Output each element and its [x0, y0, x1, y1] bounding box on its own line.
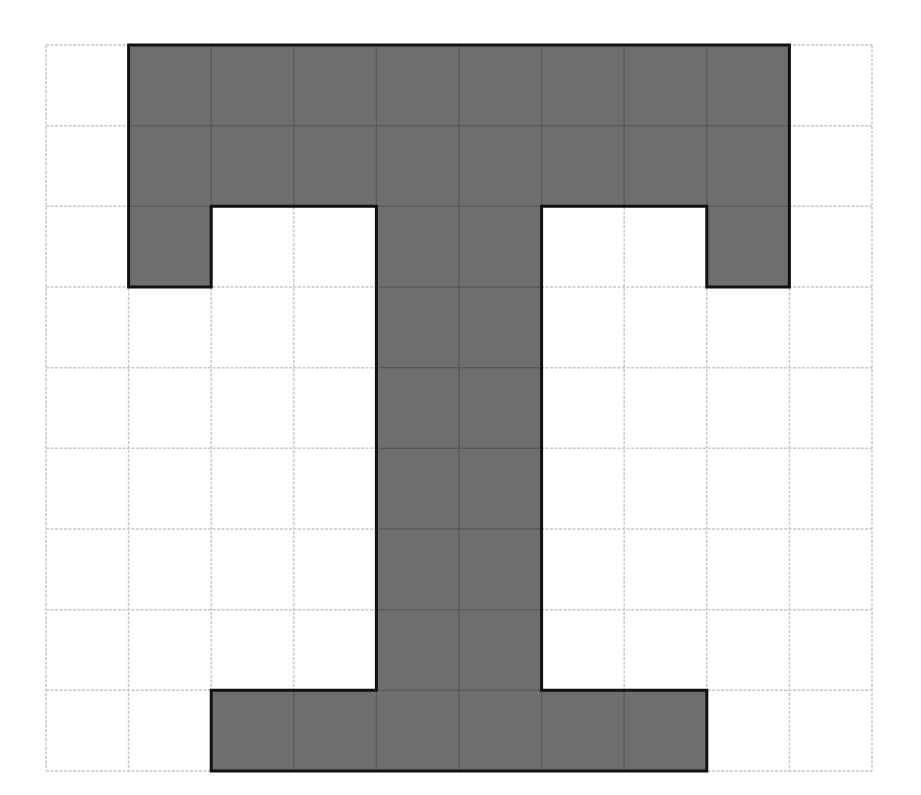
filled-cell	[294, 690, 377, 771]
filled-cell	[542, 126, 625, 207]
filled-cell	[376, 690, 459, 771]
filled-cell	[624, 45, 707, 126]
filled-cell	[376, 206, 459, 287]
filled-cell	[459, 610, 542, 691]
filled-cell	[707, 126, 790, 207]
filled-cell	[542, 45, 625, 126]
filled-cell	[294, 45, 377, 126]
filled-cell	[376, 368, 459, 449]
filled-cell	[376, 610, 459, 691]
filled-cell	[624, 126, 707, 207]
filled-cell	[459, 126, 542, 207]
filled-cell	[129, 126, 212, 207]
filled-cell	[707, 206, 790, 287]
filled-cell	[459, 690, 542, 771]
filled-cell	[211, 45, 294, 126]
filled-cell	[376, 448, 459, 529]
filled-cell	[376, 287, 459, 368]
filled-cell	[211, 690, 294, 771]
filled-cell	[459, 45, 542, 126]
filled-cell	[211, 126, 294, 207]
filled-cell	[624, 690, 707, 771]
filled-cell	[459, 448, 542, 529]
filled-cell	[376, 126, 459, 207]
filled-cell	[376, 529, 459, 610]
filled-cell	[459, 529, 542, 610]
filled-cell	[459, 287, 542, 368]
filled-cell	[542, 690, 625, 771]
filled-cell	[459, 368, 542, 449]
filled-cell	[459, 206, 542, 287]
filled-cell	[707, 45, 790, 126]
filled-cell	[129, 206, 212, 287]
filled-cell	[129, 45, 212, 126]
grid-diagram	[0, 0, 921, 795]
filled-cell	[376, 45, 459, 126]
filled-cell	[294, 126, 377, 207]
